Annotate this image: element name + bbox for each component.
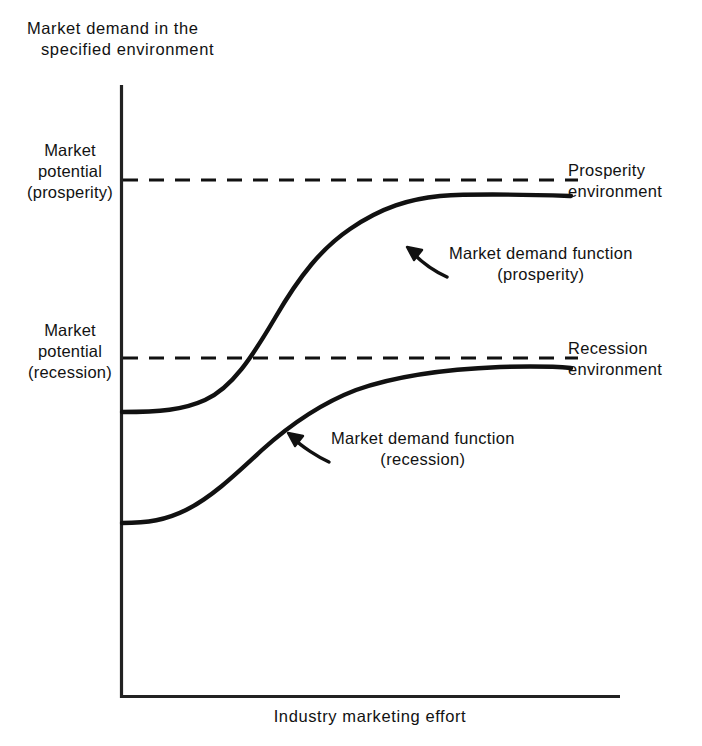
axis-label-prosperity-line-3: (prosperity) <box>27 183 113 201</box>
chart-figure: Market demand in thespecified environmen… <box>0 0 702 746</box>
axis-label-recession-line-3: (recession) <box>28 363 112 381</box>
chart-title-line-2: specified environment <box>27 39 214 60</box>
x-axis-label: Industry marketing effort <box>120 706 620 727</box>
axis-label-market-potential-prosperity: Marketpotential(prosperity) <box>26 140 114 203</box>
legend-label-prosperity-environment: Prosperityenvironment <box>568 160 662 202</box>
axis-label-recession-line-2: potential <box>38 342 102 360</box>
annotation-market-demand-function-prosperity: Market demand function(prosperity) <box>449 243 633 285</box>
annotation-prosperity-line-2: (prosperity) <box>449 264 633 285</box>
legend-prosperity-line-2: environment <box>568 182 662 200</box>
legend-prosperity-line-1: Prosperity <box>568 161 645 179</box>
chart-title: Market demand in thespecified environmen… <box>27 18 214 60</box>
axis-label-market-potential-recession: Marketpotential(recession) <box>26 320 114 383</box>
axis-label-recession-line-1: Market <box>44 321 96 339</box>
annotation-market-demand-function-recession: Market demand function(recession) <box>331 428 515 470</box>
annotation-recession-line-2: (recession) <box>331 449 515 470</box>
legend-label-recession-environment: Recessionenvironment <box>568 338 662 380</box>
axis-label-prosperity-line-2: potential <box>38 162 102 180</box>
annotation-recession-line-1: Market demand function <box>331 429 515 447</box>
chart-title-line-1: Market demand in the <box>27 19 199 37</box>
legend-recession-line-2: environment <box>568 360 662 378</box>
legend-recession-line-1: Recession <box>568 339 648 357</box>
axis-label-prosperity-line-1: Market <box>44 141 96 159</box>
annotation-prosperity-line-1: Market demand function <box>449 244 633 262</box>
